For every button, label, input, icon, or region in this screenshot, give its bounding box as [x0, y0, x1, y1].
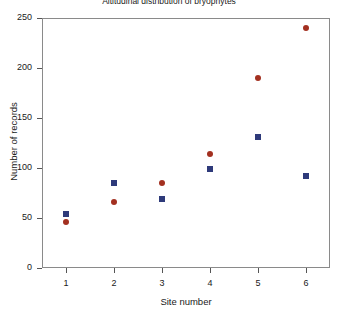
y-tick-label: 200 — [0, 63, 32, 72]
y-tick-mark — [37, 168, 42, 169]
y-tick-mark — [37, 218, 42, 219]
y-tick-mark — [37, 68, 42, 69]
x-tick-label: 2 — [94, 279, 134, 288]
x-tick-mark — [306, 268, 307, 273]
chart-figure: Altitudinal distribution of bryophytes 0… — [0, 0, 338, 317]
y-tick-mark — [37, 118, 42, 119]
x-tick-mark — [210, 268, 211, 273]
x-axis-label: Site number — [42, 296, 330, 307]
x-tick-mark — [114, 268, 115, 273]
y-tick-mark — [37, 268, 42, 269]
x-tick-label: 5 — [238, 279, 278, 288]
chart-title: Altitudinal distribution of bryophytes — [0, 0, 338, 6]
x-tick-label: 1 — [46, 279, 86, 288]
x-tick-mark — [162, 268, 163, 273]
y-tick-label: 50 — [0, 213, 32, 222]
x-tick-mark — [258, 268, 259, 273]
y-tick-label: 0 — [0, 263, 32, 272]
plot-area — [42, 18, 330, 268]
y-axis-label: Number of records — [8, 82, 19, 202]
x-tick-mark — [66, 268, 67, 273]
y-tick-label: 250 — [0, 13, 32, 22]
y-tick-mark — [37, 18, 42, 19]
x-tick-label: 3 — [142, 279, 182, 288]
x-tick-label: 6 — [286, 279, 326, 288]
x-tick-label: 4 — [190, 279, 230, 288]
